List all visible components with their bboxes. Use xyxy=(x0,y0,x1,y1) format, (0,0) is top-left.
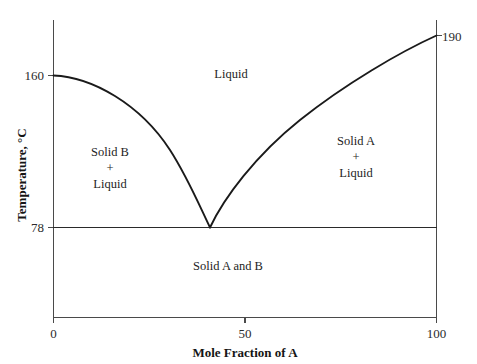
phase-diagram-figure: 160 78 190 0 50 100 Mole Fraction of A T… xyxy=(0,0,477,364)
y-tick-label-78: 78 xyxy=(31,220,44,235)
phase-diagram-plot: 160 78 190 0 50 100 Mole Fraction of A T… xyxy=(0,0,477,364)
region-label-solid-a-liquid-line3: Liquid xyxy=(339,166,373,180)
y-tick-label-160: 160 xyxy=(25,68,45,83)
x-tick-label-0: 0 xyxy=(50,326,57,341)
region-label-solid-b-liquid-plus: + xyxy=(106,161,113,175)
region-label-liquid: Liquid xyxy=(214,67,248,81)
x-axis-title: Mole Fraction of A xyxy=(192,345,298,360)
region-label-solid-a-liquid-plus: + xyxy=(352,150,359,164)
x-tick-label-50: 50 xyxy=(239,326,252,341)
region-label-solid-a-and-b: Solid A and B xyxy=(193,259,263,273)
region-label-solid-b-liquid-line1: Solid B xyxy=(91,145,129,159)
y-axis-title: Temperature, °C xyxy=(14,128,29,221)
region-label-solid-b-liquid-line3: Liquid xyxy=(93,177,127,191)
x-tick-label-100: 100 xyxy=(427,326,447,341)
region-label-solid-a-liquid-line1: Solid A xyxy=(337,134,375,148)
y-label-190: 190 xyxy=(442,29,462,44)
